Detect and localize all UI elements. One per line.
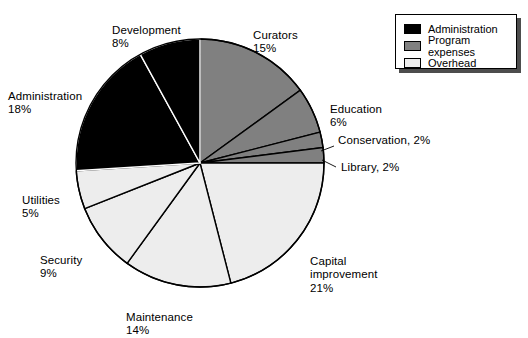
- slice-label-development-name: Development: [112, 24, 181, 36]
- legend-item-label: Overhead: [428, 57, 476, 69]
- slice-label-utilities: Utilities 5%: [22, 180, 60, 234]
- legend: Administration Program expenses Overhead: [395, 14, 517, 69]
- slice-label-maintenance-name: Maintenance: [126, 311, 193, 323]
- slice-label-education-pct: 6%: [330, 116, 382, 130]
- slice-label-development-pct: 8%: [112, 37, 181, 51]
- slice-label-administration-pct: 18%: [8, 103, 82, 117]
- slice-label-maintenance: Maintenance 14%: [126, 297, 193, 338]
- slice-label-development: Development 8%: [112, 10, 181, 64]
- slice-label-curators-pct: 15%: [253, 42, 298, 56]
- legend-swatch-icon: [404, 58, 421, 68]
- slice-label-security: Security 9%: [40, 240, 82, 294]
- slice-label-security-pct: 9%: [40, 267, 82, 281]
- slice-label-curators: Curators 15%: [253, 15, 298, 69]
- legend-item[interactable]: Program expenses: [404, 38, 516, 53]
- pie-slices: [76, 39, 324, 287]
- slice-label-capital-improvement-name: Capital improvement: [310, 255, 378, 281]
- slice-label-library: Library, 2%: [341, 161, 399, 175]
- slice-label-capital-improvement-pct: 21%: [310, 282, 378, 296]
- slice-label-administration-name: Administration: [8, 90, 82, 102]
- slice-label-education-name: Education: [330, 103, 382, 115]
- slice-label-capital-improvement: Capital improvement 21%: [310, 241, 378, 309]
- slice-label-utilities-name: Utilities: [22, 194, 60, 206]
- slice-label-conservation: Conservation, 2%: [338, 134, 430, 148]
- slice-label-curators-name: Curators: [253, 29, 298, 41]
- legend-swatch-icon: [404, 41, 421, 51]
- slice-label-security-name: Security: [40, 254, 82, 266]
- slice-label-administration: Administration 18%: [8, 76, 82, 130]
- slice-label-maintenance-pct: 14%: [126, 324, 193, 338]
- legend-swatch-icon: [404, 24, 421, 34]
- slice-label-utilities-pct: 5%: [22, 207, 60, 221]
- legend-item-label: Program expenses: [428, 34, 516, 58]
